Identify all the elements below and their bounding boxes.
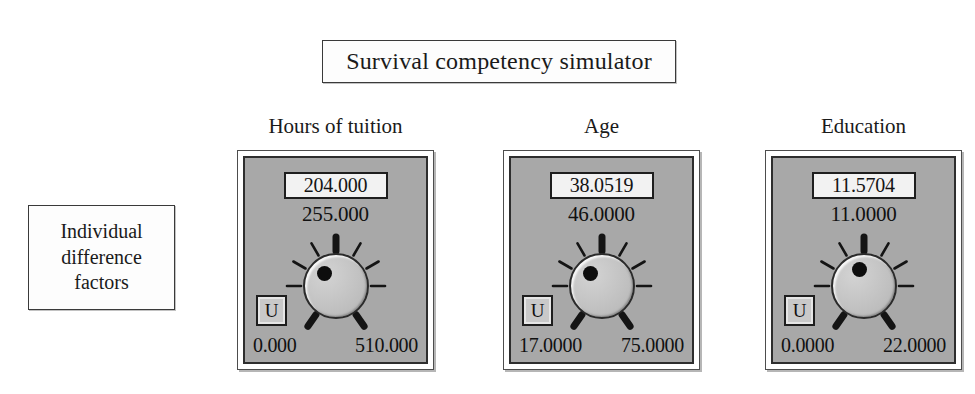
unit-button-education[interactable]: U <box>784 295 815 326</box>
setpoint-label-hours-of-tuition: 255.000 <box>302 202 369 227</box>
unit-button-label: U <box>793 300 807 322</box>
knob-pointer-indicator <box>317 266 332 281</box>
knob-age[interactable] <box>542 226 662 346</box>
panel-face: 11.5704 11.0000 <box>771 156 956 364</box>
value-readout-text: 38.0519 <box>570 174 634 197</box>
panel-header-education: Education <box>765 116 962 137</box>
range-max-age: 75.0000 <box>621 334 684 357</box>
panel-header-age: Age <box>503 116 700 137</box>
knob-dial[interactable] <box>569 253 635 319</box>
value-readout-education[interactable]: 11.5704 <box>812 172 916 199</box>
panel-face: 38.0519 46.0000 <box>509 156 694 364</box>
knob-panel-hours-of-tuition[interactable]: 204.000 255.000 <box>237 150 434 370</box>
knob-panel-education[interactable]: 11.5704 11.0000 <box>765 150 962 370</box>
knob-dial[interactable] <box>831 253 897 319</box>
unit-button-label: U <box>531 300 545 322</box>
knob-education[interactable] <box>804 226 924 346</box>
setpoint-label-age: 46.0000 <box>568 202 635 227</box>
range-min-hours-of-tuition: 0.000 <box>253 334 297 357</box>
range-max-hours-of-tuition: 510.000 <box>355 334 418 357</box>
value-readout-text: 11.5704 <box>832 174 895 197</box>
simulator-title-box: Survival competency simulator <box>322 40 676 83</box>
individual-difference-factors-label-box: Individual difference factors <box>28 205 175 310</box>
unit-button-age[interactable]: U <box>522 295 553 326</box>
knob-pointer-indicator <box>583 266 598 281</box>
value-readout-text: 204.000 <box>304 174 368 197</box>
range-min-education: 0.0000 <box>781 334 834 357</box>
knob-panel-age[interactable]: 38.0519 46.0000 <box>503 150 700 370</box>
value-readout-hours-of-tuition[interactable]: 204.000 <box>284 172 388 199</box>
group-label-line-2: difference <box>61 245 142 270</box>
group-label-line-3: factors <box>74 270 128 295</box>
panel-face: 204.000 255.000 <box>243 156 428 364</box>
unit-button-hours-of-tuition[interactable]: U <box>256 295 287 326</box>
knob-hours-of-tuition[interactable] <box>276 226 396 346</box>
group-label-line-1: Individual <box>60 219 142 244</box>
page-title: Survival competency simulator <box>346 48 652 75</box>
unit-button-label: U <box>265 300 279 322</box>
value-readout-age[interactable]: 38.0519 <box>550 172 654 199</box>
panel-header-hours-of-tuition: Hours of tuition <box>237 116 434 137</box>
knob-pointer-indicator <box>852 262 867 277</box>
knob-dial[interactable] <box>303 253 369 319</box>
range-max-education: 22.0000 <box>883 334 946 357</box>
setpoint-label-education: 11.0000 <box>830 202 896 227</box>
range-min-age: 17.0000 <box>519 334 582 357</box>
